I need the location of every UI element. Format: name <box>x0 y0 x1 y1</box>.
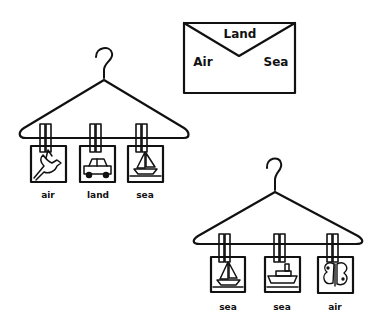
card-2: land <box>80 124 115 200</box>
envelope-label-air: Air <box>193 55 212 69</box>
envelope-label-land: Land <box>224 27 257 41</box>
envelope-label-sea: Sea <box>264 55 289 69</box>
card-1: sea <box>211 234 245 312</box>
butterfly-icon <box>324 263 347 286</box>
sailboat-icon <box>130 152 161 176</box>
card-label: air <box>328 302 342 312</box>
card-label: sea <box>136 190 154 200</box>
card-2: sea <box>265 234 300 312</box>
hanger-hook-icon <box>96 48 112 78</box>
sailboat-icon <box>213 262 243 287</box>
card-label: air <box>41 190 55 200</box>
card-3: sea <box>128 124 163 200</box>
steamship-icon <box>267 264 298 287</box>
hanger-2: sea sea <box>194 158 363 312</box>
bird-icon <box>34 150 61 180</box>
card-1: air <box>31 124 66 200</box>
hanger-1: air land <box>20 48 189 200</box>
card-label: land <box>87 190 109 200</box>
car-icon <box>84 159 111 178</box>
card-label: sea <box>273 302 291 312</box>
envelope: Land Air Sea <box>184 23 295 93</box>
illustration-canvas: Land Air Sea air <box>0 0 381 327</box>
card-3: air <box>318 234 353 312</box>
hanger-hook-icon <box>267 158 281 190</box>
card-label: sea <box>219 302 237 312</box>
